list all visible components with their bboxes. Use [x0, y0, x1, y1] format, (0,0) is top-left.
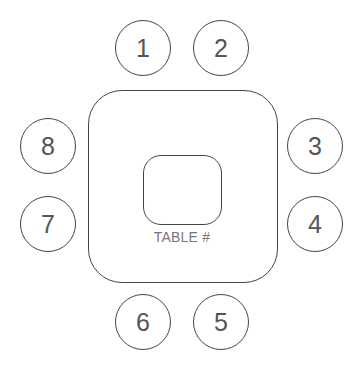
seat-5[interactable]: 5 [193, 294, 249, 350]
seat-4[interactable]: 4 [287, 196, 343, 252]
table-centerpiece [143, 155, 222, 225]
table-label: TABLE # [132, 229, 232, 245]
seat-3[interactable]: 3 [287, 118, 343, 174]
seat-6[interactable]: 6 [115, 294, 171, 350]
seat-1[interactable]: 1 [115, 20, 171, 76]
seat-2[interactable]: 2 [193, 20, 249, 76]
seat-8[interactable]: 8 [20, 118, 76, 174]
seat-7[interactable]: 7 [20, 196, 76, 252]
